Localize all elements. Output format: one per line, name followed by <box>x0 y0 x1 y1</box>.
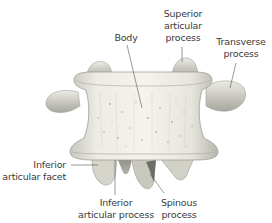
left-transverse-process <box>46 90 80 112</box>
label-inferior-articular-process: Inferior articular process <box>78 197 154 221</box>
vertebra-diagram: Body Superior articular process Transver… <box>0 0 272 223</box>
right-transverse-process <box>206 81 246 111</box>
label-inferior-articular-facet: Inferior articular facet <box>0 159 66 183</box>
label-superior-articular-process: Superior articular process <box>156 8 210 44</box>
label-spinous-process: Spinous process <box>155 197 203 221</box>
label-body: Body <box>108 32 144 44</box>
vertebral-body <box>70 72 218 160</box>
label-transverse-process: Transverse process <box>212 36 270 60</box>
